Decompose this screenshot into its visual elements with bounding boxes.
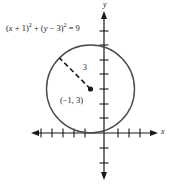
y-axis-down-arrowhead bbox=[101, 172, 107, 180]
x-axis-label: x bbox=[161, 128, 165, 136]
circle-graph-figure: (x + 1)2 + (y − 3)2 = 9 3 (−1, 3) x y bbox=[0, 0, 171, 185]
equation-segment-3: − 3) bbox=[47, 23, 63, 33]
equation-segment-1: + 1) bbox=[13, 23, 29, 33]
x-axis-right-arrowhead bbox=[150, 130, 158, 136]
center-coordinates-label: (−1, 3) bbox=[60, 96, 83, 105]
circle-equation-label: (x + 1)2 + (y − 3)2 = 9 bbox=[6, 24, 80, 33]
radius-length-label: 3 bbox=[83, 64, 87, 72]
y-axis-up-arrowhead bbox=[101, 11, 107, 19]
center-point-dot bbox=[88, 86, 93, 91]
equation-segment-4: = 9 bbox=[67, 23, 80, 33]
y-axis-label: y bbox=[103, 1, 107, 9]
x-axis-left-arrowhead bbox=[31, 130, 39, 136]
equation-segment-2: + ( bbox=[32, 23, 44, 33]
